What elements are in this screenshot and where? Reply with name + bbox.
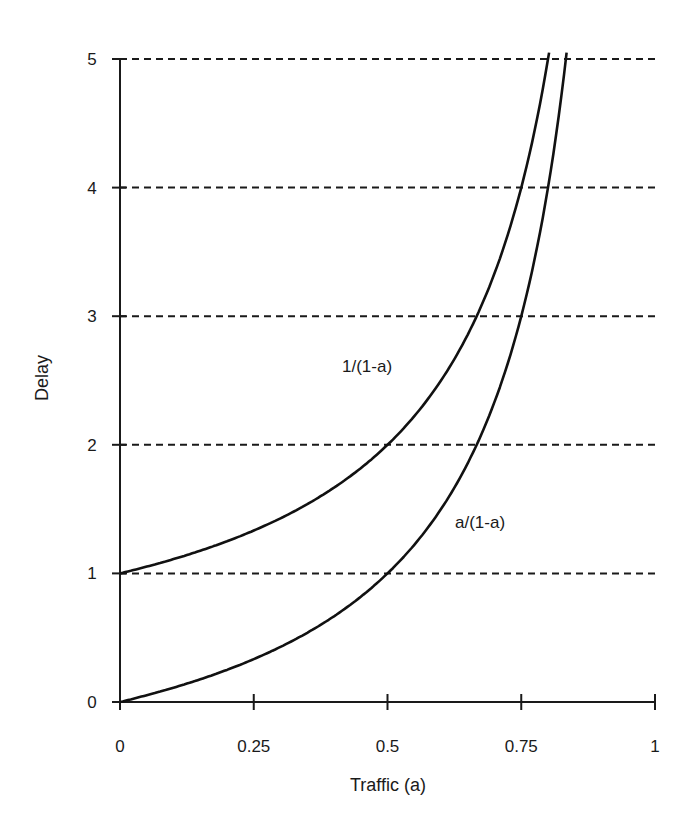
delay-vs-traffic-chart: 01234500.250.50.751 Traffic (a) Delay 1/… (0, 0, 692, 838)
gridlines (120, 59, 655, 573)
y-tick-label: 5 (87, 50, 96, 69)
x-tick-label: 0.25 (237, 737, 270, 756)
y-tick-label: 1 (87, 564, 96, 583)
y-tick-label: 0 (87, 693, 96, 712)
curve-one-over-1-minus-a (120, 53, 549, 574)
x-tick-label: 1 (650, 737, 659, 756)
y-axis-title: Delay (32, 355, 52, 401)
axes (112, 59, 655, 710)
x-tick-label: 0 (115, 737, 124, 756)
curves (120, 53, 567, 702)
curve-label-a-over-1-minus-a: a/(1-a) (455, 513, 505, 532)
tick-labels: 01234500.250.50.751 (87, 50, 659, 756)
curve-label-1-over-1-minus-a: 1/(1-a) (342, 357, 392, 376)
y-tick-label: 3 (87, 307, 96, 326)
curve-a-over-1-minus-a (120, 53, 567, 702)
y-tick-label: 2 (87, 436, 96, 455)
x-axis-title: Traffic (a) (350, 775, 426, 795)
y-tick-label: 4 (87, 179, 96, 198)
x-tick-label: 0.75 (505, 737, 538, 756)
x-tick-label: 0.5 (376, 737, 400, 756)
